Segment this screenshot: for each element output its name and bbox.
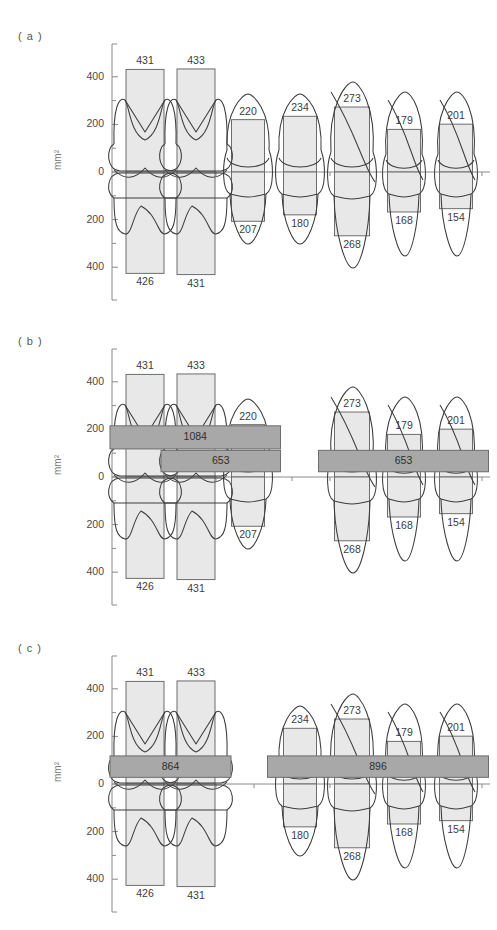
y-tick-label: 0 xyxy=(60,470,104,482)
crown-value-label: 273 xyxy=(330,397,374,409)
bar-root xyxy=(388,172,421,212)
root-value-label: 426 xyxy=(123,275,167,287)
bar-root xyxy=(177,172,215,275)
span-band-value: 653 xyxy=(319,454,489,466)
y-tick-label: 400 xyxy=(60,872,104,884)
root-value-label: 207 xyxy=(226,528,270,540)
y-tick-label: 400 xyxy=(60,70,104,82)
bar-root xyxy=(126,477,164,578)
root-value-label: 168 xyxy=(382,826,426,838)
crown-value-label: 431 xyxy=(123,54,167,66)
span-band-value: 653 xyxy=(161,454,281,466)
panel-a: ( a )mm²40020002004004314332202342731792… xyxy=(0,0,497,310)
bar-root xyxy=(440,784,473,821)
bar-root xyxy=(177,784,215,887)
crown-value-label: 201 xyxy=(434,109,478,121)
bar-root xyxy=(388,477,421,517)
root-value-label: 180 xyxy=(278,217,322,229)
root-value-label: 168 xyxy=(382,214,426,226)
y-tick-label: 200 xyxy=(60,729,104,741)
root-value-label: 268 xyxy=(330,850,374,862)
root-value-label: 431 xyxy=(174,889,218,901)
span-band-value: 896 xyxy=(268,760,489,772)
bar-crown xyxy=(232,120,265,172)
crown-value-label: 273 xyxy=(330,704,374,716)
y-tick-label: 400 xyxy=(60,375,104,387)
bar-root xyxy=(388,784,421,824)
root-value-label: 426 xyxy=(123,580,167,592)
crown-value-label: 431 xyxy=(123,666,167,678)
panel-c: ( c )mm²40020002004004314332342731792014… xyxy=(0,612,497,922)
bar-root xyxy=(284,784,317,827)
crown-value-label: 179 xyxy=(382,726,426,738)
bar-root xyxy=(177,477,215,580)
root-value-label: 180 xyxy=(278,829,322,841)
root-value-label: 426 xyxy=(123,887,167,899)
root-value-label: 168 xyxy=(382,519,426,531)
bar-root xyxy=(126,784,164,885)
y-tick-label: 200 xyxy=(60,825,104,837)
root-value-label: 268 xyxy=(330,543,374,555)
figure-root: ( a )mm²40020002004004314332202342731792… xyxy=(0,0,497,930)
crown-value-label: 201 xyxy=(434,414,478,426)
crown-value-label: 234 xyxy=(278,713,322,725)
y-tick-label: 200 xyxy=(60,422,104,434)
span-band-value: 864 xyxy=(110,760,231,772)
y-tick-label: 200 xyxy=(60,117,104,129)
panel-label-c: ( c ) xyxy=(18,642,42,654)
span-band-value: 1084 xyxy=(110,430,281,442)
crown-value-label: 433 xyxy=(174,359,218,371)
y-tick-label: 400 xyxy=(60,682,104,694)
panel-label-a: ( a ) xyxy=(18,30,43,42)
crown-value-label: 431 xyxy=(123,359,167,371)
crown-value-label: 234 xyxy=(278,101,322,113)
bar-root xyxy=(440,477,473,514)
axes xyxy=(112,349,490,605)
crown-value-label: 220 xyxy=(226,105,270,117)
root-value-label: 207 xyxy=(226,223,270,235)
y-tick-label: 0 xyxy=(60,777,104,789)
bar-root xyxy=(284,172,317,215)
bar-root xyxy=(335,784,370,848)
crown-value-label: 433 xyxy=(174,666,218,678)
root-value-label: 154 xyxy=(434,516,478,528)
panel-label-b: ( b ) xyxy=(18,335,43,347)
root-value-label: 268 xyxy=(330,238,374,250)
crown-value-label: 179 xyxy=(382,419,426,431)
crown-value-label: 179 xyxy=(382,114,426,126)
root-value-label: 431 xyxy=(174,277,218,289)
bar-root xyxy=(440,172,473,209)
y-tick-label: 400 xyxy=(60,565,104,577)
y-tick-label: 400 xyxy=(60,260,104,272)
crown-value-label: 220 xyxy=(226,410,270,422)
crown-value-label: 201 xyxy=(434,721,478,733)
bar-root xyxy=(335,477,370,541)
root-value-label: 431 xyxy=(174,582,218,594)
panel-b: ( b )mm²40020002004004314332202731792014… xyxy=(0,305,497,615)
bar-root xyxy=(335,172,370,236)
root-value-label: 154 xyxy=(434,211,478,223)
crown-value-label: 433 xyxy=(174,54,218,66)
bar-crown xyxy=(284,116,317,172)
bar-root xyxy=(126,172,164,273)
y-tick-label: 200 xyxy=(60,518,104,530)
root-value-label: 154 xyxy=(434,823,478,835)
crown-value-label: 273 xyxy=(330,92,374,104)
y-tick-label: 0 xyxy=(60,165,104,177)
y-tick-label: 200 xyxy=(60,213,104,225)
